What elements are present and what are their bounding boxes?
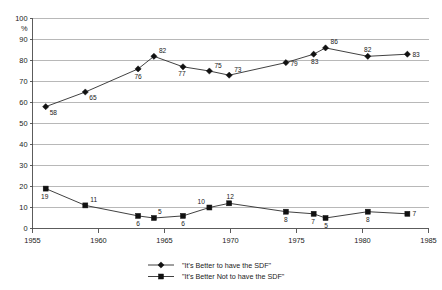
data-point-marker xyxy=(311,211,316,216)
data-point-marker xyxy=(206,68,212,74)
data-point-label: 5 xyxy=(158,208,162,215)
y-tick-label-60: 60 xyxy=(19,98,27,107)
data-point-label: 83 xyxy=(412,51,420,58)
data-point-marker xyxy=(404,51,410,57)
data-point-label: 5 xyxy=(324,222,328,229)
data-point-label: 8 xyxy=(366,216,370,223)
data-point-label: 58 xyxy=(50,109,58,116)
data-point-label: 77 xyxy=(178,70,186,77)
data-point-label: 75 xyxy=(214,62,222,69)
x-axis xyxy=(33,229,429,233)
y-tick-label-70: 70 xyxy=(19,77,27,86)
data-point-marker xyxy=(207,205,212,210)
data-point-marker xyxy=(405,211,410,216)
data-point-label: 19 xyxy=(41,193,49,200)
data-point-marker xyxy=(180,213,185,218)
series-better-to-have xyxy=(43,45,411,110)
data-point-marker xyxy=(283,209,288,214)
data-point-label: 82 xyxy=(159,47,167,54)
data-point-marker xyxy=(83,203,88,208)
y-tick-label-80: 80 xyxy=(19,56,27,65)
x-tick-label-1985: 1985 xyxy=(420,236,436,245)
data-point-label: 79 xyxy=(290,60,298,67)
series-better-not-to-have xyxy=(43,186,410,220)
x-tick-label-1970: 1970 xyxy=(222,236,238,245)
legend-label-0: "It's Better to have the SDF" xyxy=(182,261,272,270)
y-axis xyxy=(30,19,33,229)
data-point-marker xyxy=(226,72,232,78)
data-point-label: 82 xyxy=(364,46,372,53)
x-tick-label-1960: 1960 xyxy=(90,236,106,245)
data-point-marker xyxy=(43,186,48,191)
x-tick-label-1955: 1955 xyxy=(24,236,40,245)
data-point-label: 7 xyxy=(311,218,315,225)
legend-label-1: "It's Better Not to have the SDF" xyxy=(182,272,285,281)
data-point-label: 76 xyxy=(134,73,142,80)
data-point-marker xyxy=(322,45,328,51)
data-point-label: 8 xyxy=(284,216,288,223)
data-point-labels: 5865768277757379838682831911656101287587 xyxy=(41,38,420,229)
y-tick-label-20: 20 xyxy=(19,182,27,191)
data-point-marker xyxy=(43,104,49,110)
chart-legend: "It's Better to have the SDF""It's Bette… xyxy=(148,261,285,282)
y-axis-tick-labels: 0102030405060708090100 xyxy=(15,14,27,233)
data-point-marker xyxy=(227,201,232,206)
data-point-label: 7 xyxy=(412,210,416,217)
y-tick-label-100: 100 xyxy=(15,14,27,23)
chart-canvas: 0102030405060708090100 % 195519601965197… xyxy=(0,0,442,290)
data-point-marker xyxy=(365,209,370,214)
legend-marker-square-icon xyxy=(159,274,164,279)
series-line-0 xyxy=(46,48,408,107)
y-tick-label-0: 0 xyxy=(23,224,27,233)
y-tick-label-10: 10 xyxy=(19,203,27,212)
data-point-label: 12 xyxy=(227,193,235,200)
y-tick-label-90: 90 xyxy=(19,35,27,44)
y-tick-label-50: 50 xyxy=(19,119,27,128)
x-tick-label-1980: 1980 xyxy=(354,236,370,245)
y-axis-unit-label: % xyxy=(21,24,28,33)
line-chart: 0102030405060708090100 % 195519601965197… xyxy=(0,0,442,290)
data-point-label: 86 xyxy=(331,38,339,45)
data-point-label: 11 xyxy=(90,196,97,203)
data-point-marker xyxy=(311,51,317,57)
x-tick-label-1965: 1965 xyxy=(156,236,172,245)
data-point-label: 65 xyxy=(89,94,97,101)
data-point-marker xyxy=(151,216,156,221)
data-point-marker xyxy=(323,216,328,221)
y-axis-unit-label: % xyxy=(21,24,28,33)
data-point-marker xyxy=(136,213,141,218)
x-axis-tick-labels: 1955196019651970197519801985 xyxy=(24,236,436,245)
data-point-marker xyxy=(82,89,88,95)
data-point-label: 73 xyxy=(234,66,242,73)
data-point-marker xyxy=(365,53,371,59)
data-point-marker xyxy=(180,64,186,70)
data-point-label: 6 xyxy=(181,220,185,227)
legend-marker-diamond-icon xyxy=(158,262,164,268)
data-point-label: 83 xyxy=(311,58,319,65)
y-tick-label-40: 40 xyxy=(19,140,27,149)
data-point-label: 10 xyxy=(198,198,206,205)
y-tick-label-30: 30 xyxy=(19,161,27,170)
x-tick-label-1975: 1975 xyxy=(288,236,304,245)
data-point-label: 6 xyxy=(136,220,140,227)
